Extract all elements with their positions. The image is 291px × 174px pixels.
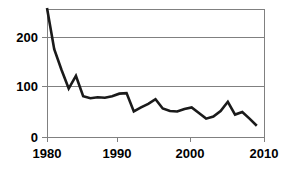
x-tick-label-2010: 2010: [250, 146, 279, 161]
plot-area-background: [47, 9, 264, 137]
x-tick-label-1990: 1990: [103, 146, 132, 161]
y-tick-label-0: 0: [31, 130, 38, 145]
y-tick-label-200: 200: [16, 30, 38, 45]
chart-figure: 200 100 0 1980 1990 2000 2010: [0, 0, 291, 174]
x-tick-label-2000: 2000: [176, 146, 205, 161]
line-chart: 200 100 0 1980 1990 2000 2010: [0, 0, 291, 174]
y-tick-label-100: 100: [16, 79, 38, 94]
x-tick-label-1980: 1980: [33, 146, 62, 161]
